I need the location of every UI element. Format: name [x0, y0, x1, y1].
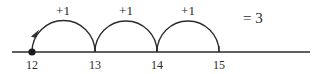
result-expression: = 3	[243, 11, 263, 26]
tick-label-12: 12	[26, 59, 38, 71]
start-point-dot	[28, 48, 35, 55]
jump-arc-3	[157, 21, 219, 52]
jump-label-2: +1	[119, 4, 133, 17]
jump-arc-1	[32, 21, 95, 52]
jump-arc-2	[95, 21, 157, 52]
jump-label-3: +1	[181, 4, 195, 17]
number-line-figure: +1 +1 +1 12 13 14 15 = 3	[0, 0, 316, 74]
tick-label-14: 14	[151, 59, 163, 71]
tick-label-15: 15	[213, 59, 225, 71]
jump-label-1: +1	[56, 4, 70, 17]
tick-label-13: 13	[89, 59, 101, 71]
